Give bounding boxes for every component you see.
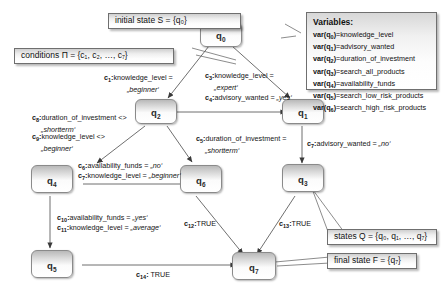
edge-label-c5-text: duration_of_investment = [205,134,286,143]
state-node-q2-subscript: 2 [157,113,161,120]
callout-states: states Q = {q₀, q₁, …, q₇} [327,229,437,245]
edge-label-c7b-value: „beginner‘ [149,171,181,180]
state-node-q6-label: q6 [196,170,206,188]
variable-value: duration_of_investment [340,54,415,63]
edge-label-c7b: c7:knowledge_level = „beginner‘ [78,171,181,183]
state-node-q1-label: q1 [298,102,308,120]
leader-states-2 [313,190,344,232]
leader-final-state-2 [277,263,330,266]
state-node-q7-subscript: 7 [255,268,259,275]
callout-initial-state: initial state S = {q₀} [108,13,241,29]
edge-label-c6-value: „no‘ [150,161,162,170]
edge-label-c7-text: advisory_wanted = [316,139,378,148]
variable-row: var(q2)=duration_of_investment [313,54,430,66]
state-node-q7[interactable]: q7 [232,252,276,280]
callout-states-text: states Q = {q₀, q₁, …, q₇} [334,232,427,241]
state-node-q3-label: q3 [298,169,308,187]
variable-value: search_low_risk_products [340,91,423,100]
edge-label-c12-text: TRUE [197,219,217,228]
variable-value: advisory_wanted [340,42,394,51]
variable-row: var(q4)=availability_funds [313,79,430,91]
edge-label-c1-text: knowledge_level = [113,73,172,82]
edge-label-c4: c4:advisory_wanted = „yes‘ [205,93,292,105]
edge-label-c9-value: „beginner‘ [32,144,105,154]
edge-label-c5: c5:duration_of_investment = „shortterm‘ [196,134,286,156]
edge-label-c8-text: duration_of_investment <> [41,113,126,122]
callout-conditions: conditions Π = {c₁, c₂, …, c₇} [14,48,174,64]
state-node-q3[interactable]: q3 [282,164,324,192]
variables-panel: Variables: var(q0)=knowledge_level var(q… [306,12,437,90]
edge-label-c7: c7:advisory_wanted = „no‘ [307,139,391,151]
leader-initial-state [285,24,301,33]
edge-label-c13-text: TRUE [292,219,312,228]
edge-label-c7b-text: knowledge_level = [87,171,148,180]
state-node-q6-subscript: 6 [202,181,206,188]
edge-label-c7-value: „no‘ [379,139,391,148]
edge-label-c3-text: knowledge_level = [214,71,273,80]
callout-final-state-text: final state F = {q₇} [334,256,401,265]
edge-label-c10-value: „yes‘ [132,213,147,222]
edge-label-c5-value: „shortterm‘ [196,146,286,156]
variable-value: search_all_products [340,67,404,76]
variable-row: var(q6)=search_high_risk_products [313,103,430,115]
edge-label-c9: c9:knowledge_level <> „beginner‘ [32,132,105,154]
edge-label-c9-text: knowledge_level <> [41,132,105,141]
state-node-q2-label: q2 [151,102,161,120]
variable-row: var(q5)=search_low_risk_products [313,91,430,103]
leader-conditions [192,48,236,60]
state-node-q1-subscript: 1 [304,113,308,120]
edge-label-c4-text: advisory_wanted = [214,93,276,102]
state-node-q0-subscript: 0 [222,36,226,43]
callout-final-state: final state F = {q₇} [327,253,417,269]
state-node-q7-label: q7 [249,257,259,275]
edge-q2-q6 [167,126,192,162]
edge-label-c12: c12:TRUE [184,219,216,231]
edge-label-c13-id: c13: [279,219,292,228]
state-node-q5-label: q5 [47,255,57,273]
state-node-q4-label: q4 [47,170,57,188]
edge-label-c10-id: c10: [57,213,70,222]
edge-label-c13: c13:TRUE [279,219,311,231]
variable-value: knowledge_level [340,30,393,39]
variable-row: var(q0)=knowledge_level [313,30,430,42]
variable-value: search_high_risk_products [340,103,426,112]
edge-label-c4-value: „yes‘ [277,93,292,102]
edge-label-c11-text: knowledge_level = [69,223,130,232]
state-node-q3-subscript: 3 [304,180,308,187]
edge-label-c6-text: availability_funds = [87,161,150,170]
edge-label-c11: c11:knowledge_level = „average‘ [57,223,161,235]
edge-label-c12-id: c12: [184,219,197,228]
edge-label-c1-value: „beginner‘ [104,85,173,95]
state-node-q2[interactable]: q2 [135,99,177,124]
edge-label-c3: c3:knowledge_level = „expert‘ [205,71,274,93]
leader-final-state [275,257,330,262]
leader-initial-state-2 [281,36,296,38]
state-node-q4-subscript: 4 [53,181,57,188]
edge-label-c11-value: „average‘ [131,223,161,232]
state-node-q5-subscript: 5 [53,266,57,273]
variable-row: var(q1)=advisory_wanted [313,42,430,54]
leader-conditions-2 [196,55,236,64]
edge-label-c14-id: c14: [136,270,149,279]
edge-label-c1: c1:knowledge_level = „beginner‘ [104,73,173,95]
callout-conditions-text: conditions Π = {c₁, c₂, …, c₇} [21,51,128,60]
variable-value: availability_funds [340,79,395,88]
edge-label-c14-text: TRUE [150,270,170,279]
edge-label-c14: c14: TRUE [136,270,170,282]
edge-q0-q2 [168,46,209,98]
edge-label-c10-text: availability_funds = [70,213,133,222]
variable-row: var(q3)=search_all_products [313,67,430,79]
variables-panel-title: Variables: [313,17,430,27]
callout-initial-state-text: initial state S = {q₀} [115,16,187,25]
diagram-canvas: q0 q1 q2 q3 q4 q5 q6 q7 initial state S … [0,0,441,285]
state-node-q6[interactable]: q6 [180,165,222,193]
edge-label-c11-id: c11: [57,223,69,232]
state-node-q5[interactable]: q5 [31,250,73,278]
edge-label-c3-value: „expert‘ [205,83,274,93]
state-node-q4[interactable]: q4 [31,165,73,193]
